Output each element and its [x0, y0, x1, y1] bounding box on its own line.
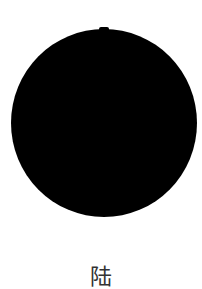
black-circle-image: [11, 29, 197, 217]
caption-label: 陆: [0, 266, 202, 288]
circle-top-mark: [99, 27, 109, 31]
